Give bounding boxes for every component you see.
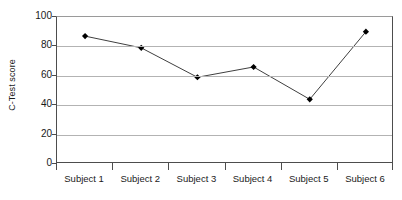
x-axis-tick-mark <box>281 163 282 170</box>
series-polyline <box>85 32 366 100</box>
x-axis-tick-mark <box>168 163 169 170</box>
x-axis-label: Subject 4 <box>225 173 281 193</box>
data-series-line <box>57 17 394 164</box>
x-axis-label: Subject 2 <box>112 173 168 193</box>
x-axis-tick-mark <box>337 163 338 170</box>
gridline <box>57 76 392 77</box>
x-axis-label: Subject 3 <box>168 173 224 193</box>
x-axis-labels: Subject 1Subject 2Subject 3Subject 4Subj… <box>56 173 393 193</box>
data-point-marker <box>250 64 256 70</box>
gridline <box>57 135 392 136</box>
x-axis-tick-mark <box>112 163 113 170</box>
gridline <box>57 105 392 106</box>
x-axis-tick-mark <box>392 163 393 170</box>
y-axis-tick-marks <box>0 0 60 200</box>
x-axis-label: Subject 1 <box>56 173 112 193</box>
x-axis-label: Subject 6 <box>337 173 393 193</box>
chart-container: C-Test score 020406080100 Subject 1Subje… <box>0 0 402 200</box>
x-axis-tick-mark <box>225 163 226 170</box>
x-axis-label: Subject 5 <box>281 173 337 193</box>
plot-area <box>56 16 393 163</box>
gridline <box>57 46 392 47</box>
x-axis-tick-marks <box>56 163 393 170</box>
x-axis-tick-mark <box>56 163 57 170</box>
data-point-marker <box>82 33 88 39</box>
